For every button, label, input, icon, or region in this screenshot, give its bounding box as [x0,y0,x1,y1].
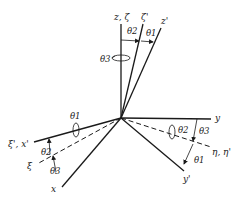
x-axis-line [62,118,121,187]
euler-angle-diagram: z, ζ ζ' z' y η, η' y' ξ', x' ξ x θ2 θ1 θ… [0,0,242,199]
xi-axis-line [37,118,121,164]
eta-label: η, η' [212,148,231,157]
right-theta3-label: θ3 [199,127,210,136]
right-theta2-label: θ2 [178,126,189,135]
zeta-prime-label: ζ' [141,13,148,22]
z-zeta-label: z, ζ [114,13,129,22]
top-theta3-label: θ3 [100,55,111,64]
xi-prime-axis-line [34,118,121,142]
y-prime-axis-line [121,118,184,171]
xi-prime-label: ξ', x' [8,140,29,149]
axes-drawing [0,0,242,199]
z-prime-axis-line [121,28,161,118]
x-label: x [51,185,56,194]
left-theta3-label: θ3 [50,167,61,176]
left-theta1-label: θ1 [70,112,81,121]
z-prime-label: z' [161,17,168,26]
top-theta2-label: θ2 [127,27,138,36]
y-prime-label: y' [183,175,191,184]
eta-axis-line [121,118,211,147]
xi-label: ξ [27,162,32,171]
zeta-prime-axis-line [121,24,143,118]
top-theta1-label: θ1 [146,29,157,38]
y-axis-line [121,118,211,119]
right-theta1-label: θ1 [194,156,205,165]
y-label: y [215,114,220,123]
left-theta2-label: θ2 [41,148,52,157]
